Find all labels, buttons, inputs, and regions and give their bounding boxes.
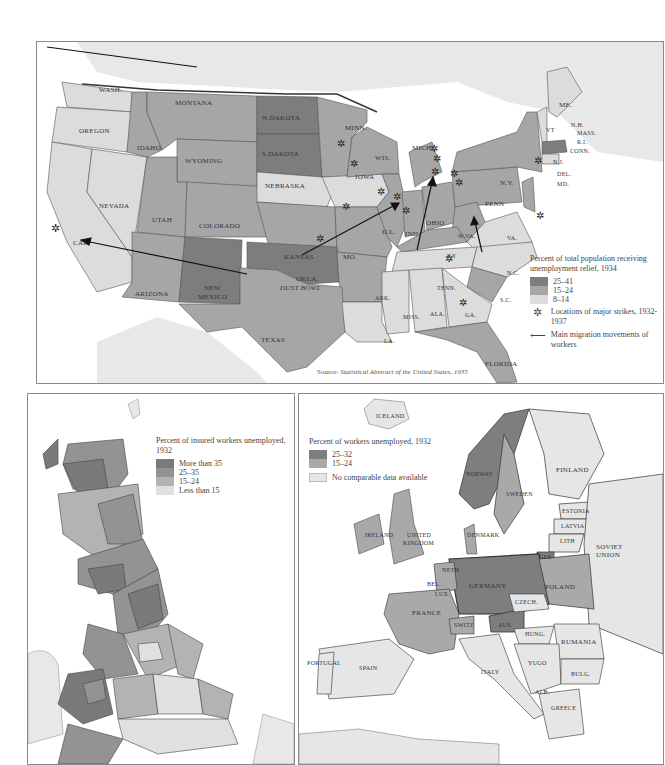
- state-label: TENN.: [437, 285, 456, 291]
- state-mass: [542, 140, 567, 154]
- country-label: NORWAY: [466, 471, 493, 477]
- svg-text:✲: ✲: [455, 177, 463, 188]
- state-label: UTAH: [152, 216, 172, 224]
- country-label: LATVIA: [561, 523, 584, 529]
- dust-bowl-label: DUST BOWL: [280, 284, 321, 292]
- country-label: FINLAND: [556, 466, 589, 474]
- svg-text:✲: ✲: [431, 166, 439, 177]
- legend-class: Less than 15: [156, 486, 286, 495]
- legend-class: 15–24: [156, 477, 286, 486]
- legend-swatch: [530, 295, 548, 304]
- state-label: WIS.: [375, 154, 391, 162]
- country-label: SPAIN: [359, 665, 377, 671]
- state-label: ILL.: [382, 228, 396, 236]
- state-label: NEBRASKA: [265, 182, 305, 190]
- europe-map-legend: Percent of workers unemployed, 1932 25–3…: [309, 437, 469, 482]
- svg-text:✲: ✲: [342, 201, 350, 212]
- state-label: OKLA.: [296, 275, 319, 283]
- svg-text:✲: ✲: [350, 158, 358, 169]
- state-nj: [522, 177, 535, 212]
- country-label: POLAND: [545, 583, 575, 591]
- country-label: BULG.: [571, 671, 590, 677]
- uk-map-legend: Percent of insured workers unemployed, 1…: [156, 436, 286, 495]
- state-label: S.DAKOTA: [262, 150, 299, 158]
- state-label: LA.: [384, 338, 394, 344]
- state-label: S.C.: [500, 297, 512, 303]
- state-label: MEXICO: [198, 293, 227, 301]
- us-map-legend: Percent of total population receiving un…: [530, 254, 658, 350]
- state-label: W.VA.: [458, 233, 476, 239]
- state-label: CONN.: [570, 148, 590, 154]
- state-label: MISS.: [403, 314, 420, 320]
- state-label: CAL.: [73, 239, 90, 247]
- state-label: FLORIDA: [485, 360, 517, 368]
- state-label: VT: [546, 127, 555, 133]
- state-label: IND.: [405, 230, 420, 238]
- svg-text:✲: ✲: [459, 297, 467, 308]
- state-label: KANSAS: [284, 253, 314, 261]
- country-label: UNITED: [407, 532, 431, 538]
- state-label: WASH.: [99, 86, 122, 94]
- state-label: ARIZONA: [135, 290, 169, 298]
- country-label: RUMANIA: [561, 638, 597, 646]
- state-label: MICH.: [412, 144, 434, 152]
- state-label: TEXAS: [261, 336, 285, 344]
- state-label: N.Y.: [500, 179, 514, 187]
- legend-swatch: [156, 468, 174, 477]
- legend-class: 25–41: [530, 277, 658, 286]
- uk-unemployment-map-panel: Percent of insured workers unemployed, 1…: [27, 393, 295, 765]
- legend-class: 15–24: [309, 459, 469, 468]
- country-label: LUX.: [435, 591, 450, 597]
- country-label: HUNG.: [525, 631, 545, 637]
- svg-text:✲: ✲: [536, 210, 544, 221]
- country-label: FRANCE: [412, 609, 441, 617]
- state-label: GA.: [465, 312, 476, 318]
- legend-swatch: [309, 473, 327, 482]
- legend-class: More than 35: [156, 459, 286, 468]
- legend-title: Percent of workers unemployed, 1932: [309, 437, 469, 447]
- source-note: Source: Statistical Abstract of the Unit…: [317, 368, 468, 376]
- state-label: MASS.: [577, 130, 596, 136]
- state-label: MINN.: [345, 124, 367, 132]
- svg-text:✲: ✲: [337, 138, 345, 149]
- country-label: BEL.: [427, 581, 441, 587]
- state-label: OREGON: [79, 127, 110, 135]
- country-label: LITH: [560, 538, 575, 544]
- state-label: MO.: [343, 253, 357, 261]
- legend-title: Percent of total population receiving un…: [530, 254, 658, 274]
- legend-swatch: [530, 286, 548, 295]
- state-label: ME.: [559, 101, 572, 109]
- svg-text:✲: ✲: [433, 153, 441, 164]
- svg-text:✲: ✲: [402, 205, 410, 216]
- legend-title: Percent of insured workers unemployed, 1…: [156, 436, 286, 456]
- country-label: CZECH.: [515, 599, 538, 605]
- country-label: AUS.: [498, 622, 513, 628]
- country-label: GERMANY: [469, 582, 507, 590]
- country-label: SWEDEN: [506, 491, 533, 497]
- state-label: N.H.: [571, 122, 584, 128]
- svg-text:✲: ✲: [534, 155, 542, 166]
- state-label: PENN: [485, 200, 504, 208]
- us-unemployment-map-panel: ✲ ✲ ✲ ✲ ✲ ✲ ✲ ✲ ✲ ✲ ✲ ✲ ✲ ✲ ✲ ✲ ✲ WASH. …: [36, 41, 664, 384]
- country-label: ESTONIA: [562, 508, 590, 514]
- country-label: IRELAND: [365, 532, 393, 538]
- state-label: DEL.: [557, 171, 571, 177]
- legend-class: 15–24: [530, 286, 658, 295]
- legend-no-data: No comparable data available: [309, 473, 469, 482]
- legend-swatch: [156, 486, 174, 495]
- state-label: COLORADO: [199, 222, 240, 230]
- state-label: VA.: [507, 235, 517, 241]
- svg-text:✲: ✲: [316, 233, 324, 244]
- svg-text:✲: ✲: [377, 186, 385, 197]
- state-ala: [409, 268, 447, 332]
- state-label: ARK.: [375, 295, 390, 301]
- country-label: ALB.: [535, 689, 550, 695]
- state-label: NEVADA: [99, 202, 129, 210]
- state-label: MONTANA: [175, 99, 212, 107]
- country-label: SWITZ: [454, 622, 474, 628]
- country-label: ITALY: [481, 669, 499, 675]
- country-label: SOVIET: [596, 543, 623, 551]
- country-label: PORTUGAL: [307, 660, 341, 666]
- legend-swatch: [156, 477, 174, 486]
- legend-strikes: ✲Locations of major strikes, 1932-1937: [530, 307, 658, 327]
